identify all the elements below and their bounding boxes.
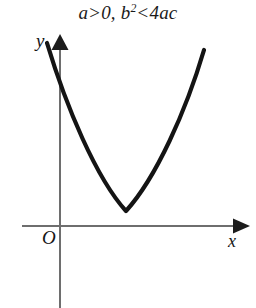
title-operator-less: < — [137, 2, 150, 23]
title-exponent: 2 — [130, 2, 136, 15]
figure-title: a>0, b2<4ac — [0, 3, 256, 22]
y-axis-label: y — [36, 31, 44, 50]
parabola-figure: a>0, b2<4ac y x O — [0, 0, 256, 308]
x-axis-label: x — [228, 232, 236, 250]
title-term-a: a — [79, 2, 89, 23]
y-axis-arrow-icon — [52, 34, 69, 50]
parabola-curve — [47, 43, 204, 211]
title-value-zero: 0, — [101, 2, 116, 23]
title-term-4ac: 4ac — [149, 2, 177, 23]
title-term-b: b — [121, 2, 131, 23]
title-operator-greater: > — [88, 2, 101, 23]
origin-label: O — [42, 228, 56, 247]
